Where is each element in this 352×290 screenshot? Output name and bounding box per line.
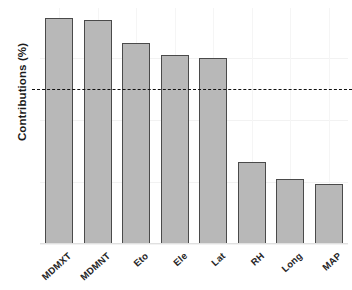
x-tick-label-ele: Ele [171,250,189,268]
x-tick-label-mdmnt: MDMNT [78,250,112,283]
threshold-line [32,89,352,90]
y-axis-title: Contributions (%) [16,12,28,172]
x-tick-label-lat: Lat [209,250,227,268]
bar-chart: Contributions (%) 051015 MDMXTMDMNTEtoEl… [0,0,352,290]
x-tick-label-mdmxt: MDMXT [40,250,74,282]
plot-area: 051015 [40,8,348,244]
x-tick-label-map: MAP [320,250,344,273]
annotations-layer [40,8,348,244]
x-tick-label-rh: RH [248,250,266,268]
x-tick-label-long: Long [279,250,304,274]
gridline-y-0 [40,244,348,245]
x-tick-label-eto: Eto [131,250,150,269]
